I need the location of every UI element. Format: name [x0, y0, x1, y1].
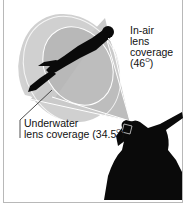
in-air-coverage-label: In-air lens coverage (46O) — [130, 25, 173, 69]
underwater-label-line2: lens coverage (34.5O) — [24, 129, 124, 140]
in-air-angle: (46O) — [130, 58, 173, 69]
underwater-coverage-label: Underwater lens coverage (34.5O) — [24, 118, 124, 140]
